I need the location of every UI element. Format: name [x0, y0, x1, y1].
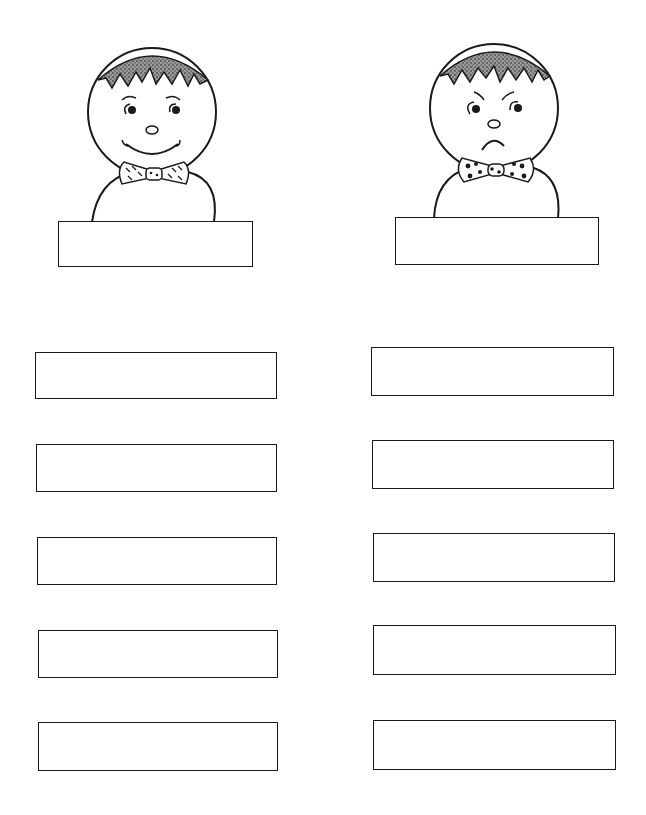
right-answer-value: [374, 626, 615, 674]
right-answer-box-5[interactable]: [373, 720, 616, 770]
left-answer-box-5[interactable]: [38, 722, 278, 771]
left-answer-value: [38, 538, 276, 584]
left-answer-value: [37, 445, 276, 491]
sad-boy-figure: [422, 38, 582, 228]
sad-boy-icon: [422, 38, 582, 228]
left-answer-box-2[interactable]: [36, 444, 277, 492]
left-answer-value: [36, 353, 276, 398]
right-answer-value: [374, 534, 614, 581]
left-answer-value: [39, 723, 277, 770]
right-answer-value: [372, 348, 613, 395]
right-answer-box-4[interactable]: [373, 625, 616, 675]
right-answer-box-2[interactable]: [372, 440, 614, 489]
happy-label-box[interactable]: [58, 221, 253, 267]
sad-label-value: [396, 218, 598, 264]
left-answer-box-1[interactable]: [35, 352, 277, 399]
happy-boy-figure: [80, 40, 240, 230]
right-answer-value: [374, 721, 615, 769]
happy-boy-icon: [80, 40, 240, 230]
sad-label-box[interactable]: [395, 217, 599, 265]
left-answer-value: [39, 631, 277, 677]
right-answer-box-1[interactable]: [371, 347, 614, 396]
happy-label-value: [59, 222, 252, 266]
right-answer-value: [373, 441, 613, 488]
left-answer-box-4[interactable]: [38, 630, 278, 678]
left-answer-box-3[interactable]: [37, 537, 277, 585]
right-answer-box-3[interactable]: [373, 533, 615, 582]
